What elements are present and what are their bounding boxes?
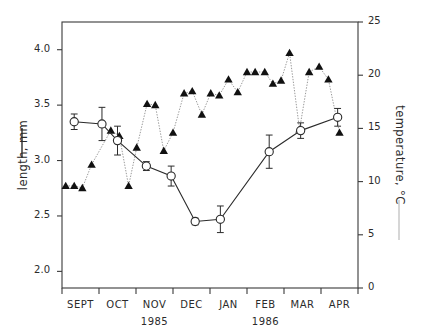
x-axis-tick-label: APR xyxy=(315,299,365,310)
temperature-data-point xyxy=(251,68,259,75)
temperature-data-point xyxy=(143,100,151,107)
temperature-data-point xyxy=(215,91,223,98)
temperature-data-point xyxy=(62,182,70,189)
temperature-data-point xyxy=(188,87,196,94)
temperature-data-point xyxy=(324,75,332,82)
chart-plot-area xyxy=(0,0,421,332)
y-axis-right-tick-label: 5 xyxy=(368,228,398,239)
temperature-data-point xyxy=(277,76,285,83)
length-data-point xyxy=(142,162,150,170)
y-axis-right-tick-label: 25 xyxy=(368,15,398,26)
temperature-data-point xyxy=(78,184,86,191)
y-axis-right-tick-label: 10 xyxy=(368,175,398,186)
y-axis-left-tick-label: 2.0 xyxy=(20,264,50,275)
length-data-point xyxy=(98,120,106,128)
y-axis-left-tick-label: 3.5 xyxy=(20,98,50,109)
temperature-data-point xyxy=(169,128,177,135)
x-axis-year-label: 1986 xyxy=(241,316,291,327)
temperature-data-point xyxy=(124,182,132,189)
temperature-data-point xyxy=(224,75,232,82)
temperature-data-point xyxy=(261,68,269,75)
y-axis-right-title: temperature, °C xyxy=(393,75,407,235)
y-axis-left-tick-label: 2.5 xyxy=(20,209,50,220)
temperature-data-point xyxy=(151,101,159,108)
length-data-point xyxy=(113,136,121,144)
temperature-data-point xyxy=(315,62,323,69)
length-data-point xyxy=(167,172,175,180)
temperature-data-point xyxy=(207,89,215,96)
temperature-data-point xyxy=(243,68,251,75)
length-data-point xyxy=(297,127,305,135)
length-data-point xyxy=(216,215,224,223)
chart-figure: length, mm temperature, °C 2.02.53.03.54… xyxy=(0,0,421,332)
temperature-data-point xyxy=(305,68,313,75)
temperature-data-point xyxy=(285,49,293,56)
temperature-data-point xyxy=(133,143,141,150)
length-data-point xyxy=(265,148,273,156)
length-data-point xyxy=(191,217,199,225)
length-data-point xyxy=(70,118,78,126)
temperature-data-point xyxy=(269,80,277,87)
x-axis-year-label: 1985 xyxy=(130,316,180,327)
temperature-data-point xyxy=(335,128,343,135)
temperature-data-point xyxy=(234,88,242,95)
y-axis-right-tick-label: 0 xyxy=(368,281,398,292)
y-axis-right-tick-label: 20 xyxy=(368,68,398,79)
plot-frame xyxy=(62,22,358,288)
temperature-data-point xyxy=(160,147,168,154)
temperature-data-point xyxy=(70,182,78,189)
temperature-line xyxy=(66,53,340,188)
y-axis-left-tick-label: 3.0 xyxy=(20,154,50,165)
length-data-point xyxy=(334,113,342,121)
temperature-data-point xyxy=(198,110,206,117)
y-axis-left-tick-label: 4.0 xyxy=(20,43,50,54)
temperature-data-point xyxy=(87,160,95,167)
y-axis-right-tick-label: 15 xyxy=(368,121,398,132)
